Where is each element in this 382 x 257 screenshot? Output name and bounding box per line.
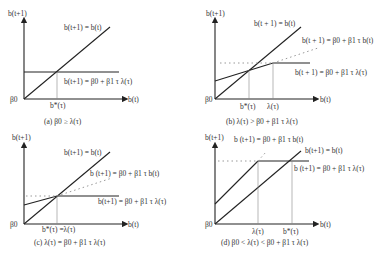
line-label: b (t+1) = β0 + β1 τ λ(τ) (294, 164, 365, 173)
panel-c: b(t+1) b(t) β0 b(t+1) = b(t) b (t+1) = β… (10, 133, 167, 247)
caption: (a) β0 ≥ λ(τ) (44, 117, 82, 126)
x-axis-label: b(t) (320, 220, 331, 229)
identity-line (24, 152, 110, 224)
line-label: b(t+1) = β0 + β1 τ λ(τ) (64, 77, 133, 86)
x-tick: λ(τ) (252, 227, 264, 236)
caption: (b) λ(τ) > β0 + β1 τ λ(τ) (226, 117, 298, 126)
x-tick: b*(τ) (240, 102, 256, 111)
linear-extension (258, 152, 266, 161)
line-label: b(t + 1) = b(t) (254, 19, 296, 28)
line-label: b(t + 1) = β0 + β1 τ λ(τ) (295, 68, 368, 77)
y-axis-label: b(t+1) (12, 133, 31, 142)
origin-label: β0 (205, 220, 213, 229)
line-label: b(t+1) = β0 + β1 τ λ(τ) (98, 197, 167, 206)
x-axis-label: b(t) (128, 220, 139, 229)
identity-line (24, 27, 110, 99)
x-tick: λ(τ) (267, 102, 279, 111)
origin-label: β0 (205, 95, 213, 104)
line-label: b (t+1) = β0 + β1 τ b(t) (234, 135, 304, 144)
line-label: b(t+1) = b(t) (64, 148, 102, 157)
x-axis-label: b(t) (320, 95, 331, 104)
line-label: b(t+1) = b(t) (64, 23, 102, 32)
linear-line (215, 161, 258, 204)
line-label: b(t+1) = b(t) (305, 146, 343, 155)
y-axis-label: b(t+1) (206, 9, 225, 18)
caption: (c) λ(τ) = β0 + β1 τ λ(τ) (34, 238, 106, 247)
panel-a: b(t+1) b(t) β0 b(t+1) = b(t) b(t+1) = β0… (8, 9, 139, 126)
x-tick: b*(τ) (50, 101, 66, 110)
origin-label: β0 (10, 220, 18, 229)
line-label: b(t + 1) = β0 + β1 τ b(t) (302, 36, 374, 45)
linear-extension (57, 178, 112, 196)
x-tick: b*(τ) =λ(τ) (42, 225, 76, 234)
y-axis-label: b(t+1) (205, 133, 224, 142)
x-tick: b*(τ) (283, 227, 299, 236)
x-axis-label: b(t) (128, 95, 139, 104)
y-axis-label: b(t+1) (8, 9, 27, 18)
linear-extension (273, 48, 318, 63)
panel-b: b(t+1) b(t) β0 b(t + 1) = b(t) b(t + 1) … (205, 9, 374, 126)
linear-line (215, 63, 273, 81)
origin-label: β0 (10, 95, 18, 104)
panel-d: b(t+1) b(t) β0 b (t+1) = β0 + β1 τ b(t) … (205, 133, 365, 247)
figure-canvas: b(t+1) b(t) β0 b(t+1) = b(t) b(t+1) = β0… (0, 0, 382, 257)
line-label: b (t+1) = β0 + β1 τ b(t) (90, 169, 160, 178)
caption: (d) β0 < λ(τ) < β0 + β1 τ λ(τ) (221, 238, 309, 247)
